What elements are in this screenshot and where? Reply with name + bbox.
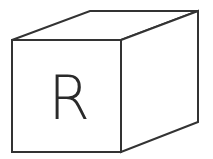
front-face-label: R (48, 63, 90, 133)
cube-diagram: R (0, 0, 213, 159)
